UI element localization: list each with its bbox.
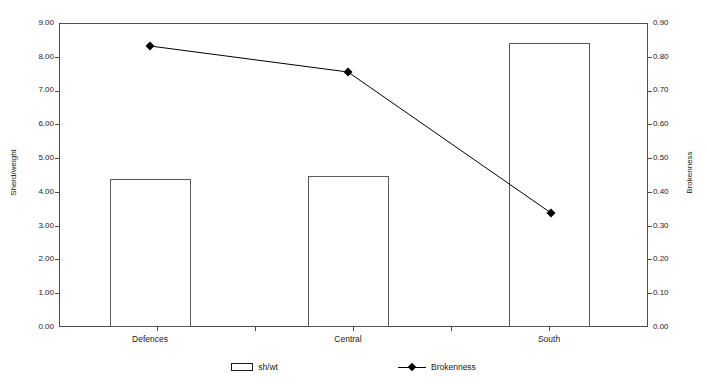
x-axis-tick: [255, 327, 256, 331]
y-axis-right-tick-label: 0.90: [653, 19, 669, 27]
legend-item-brokenness[interactable]: Brokenness: [398, 362, 476, 372]
y-axis-left-tick-label: 5.00: [38, 154, 54, 162]
y-axis-right-tick-label: 0.10: [653, 289, 669, 297]
y-axis-left-title: Sherd/weight: [9, 138, 18, 208]
bar-south[interactable]: [509, 43, 590, 327]
y-axis-right-tick-label: 0.40: [653, 188, 669, 196]
legend-label-shwt: sh/wt: [258, 362, 278, 372]
bar-swatch-icon: [231, 363, 253, 371]
chart-root: 9.00 8.00 7.00 6.00 5.00 4.00 3.00 2.00 …: [0, 0, 707, 384]
y-axis-left-tick-label: 0.00: [38, 323, 54, 331]
y-axis-left-tick-label: 9.00: [38, 19, 54, 27]
y-axis-left-tick: [55, 192, 59, 193]
y-axis-left-tick: [55, 124, 59, 125]
x-axis-tick: [157, 327, 158, 331]
legend-label-brokenness: Brokenness: [431, 362, 476, 372]
x-axis-label-south: South: [509, 334, 589, 344]
y-axis-right-tick-label: 0.00: [653, 323, 669, 331]
x-axis-tick: [353, 327, 354, 331]
y-axis-left-tick: [55, 259, 59, 260]
y-axis-right-tick-label: 0.30: [653, 222, 669, 230]
line-diamond-icon: [398, 363, 426, 371]
y-axis-left-tick: [55, 226, 59, 227]
chart-legend: sh/wt Brokenness: [0, 358, 707, 376]
y-axis-left-tick: [55, 158, 59, 159]
y-axis-left-tick: [55, 293, 59, 294]
x-axis-tick: [549, 327, 550, 331]
y-axis-right: 0.90 0.80 0.70 0.60 0.50 0.40 0.30 0.20 …: [653, 0, 707, 384]
bar-defences[interactable]: [110, 179, 191, 328]
bar-central[interactable]: [308, 176, 389, 327]
legend-item-shwt[interactable]: sh/wt: [231, 362, 278, 372]
y-axis-right-tick: [648, 158, 652, 159]
y-axis-right-tick: [648, 57, 652, 58]
y-axis-left-tick-label: 7.00: [38, 86, 54, 94]
y-axis-right-tick: [648, 91, 652, 92]
y-axis-left-tick-label: 1.00: [38, 289, 54, 297]
x-axis-tick: [451, 327, 452, 331]
y-axis-right-tick-label: 0.20: [653, 255, 669, 263]
y-axis-left-tick-label: 3.00: [38, 222, 54, 230]
y-axis-left-tick-label: 8.00: [38, 53, 54, 61]
y-axis-left-tick: [55, 91, 59, 92]
y-axis-right-tick-label: 0.50: [653, 154, 669, 162]
x-axis-label-central: Central: [308, 334, 388, 344]
y-axis-right-tick-label: 0.60: [653, 120, 669, 128]
y-axis-right-tick-label: 0.70: [653, 86, 669, 94]
y-axis-left-tick-label: 2.00: [38, 255, 54, 263]
y-axis-right-tick: [648, 293, 652, 294]
y-axis-left-tick-label: 6.00: [38, 120, 54, 128]
x-axis-label-defences: Defences: [110, 334, 190, 344]
y-axis-right-tick: [648, 124, 652, 125]
y-axis-left-tick-label: 4.00: [38, 188, 54, 196]
y-axis-right-title: Brokenness: [685, 138, 694, 208]
y-axis-right-tick: [648, 259, 652, 260]
y-axis-right-tick-label: 0.80: [653, 53, 669, 61]
y-axis-right-tick: [648, 226, 652, 227]
y-axis-right-tick: [648, 192, 652, 193]
y-axis-left-tick: [55, 57, 59, 58]
